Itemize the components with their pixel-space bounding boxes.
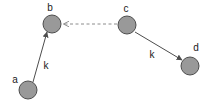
edge-a-to-b-line	[33, 32, 47, 82]
node-c-circle	[118, 16, 136, 34]
edge-a-to-b[interactable]: k	[33, 32, 50, 82]
node-a-circle	[19, 81, 37, 99]
node-layer: a b c d	[12, 2, 199, 99]
node-b-circle	[43, 15, 61, 33]
node-d[interactable]: d	[181, 42, 199, 75]
node-d-label: d	[193, 42, 199, 53]
edge-c-to-d-label: k	[150, 49, 156, 60]
edge-a-to-b-label: k	[44, 60, 50, 71]
node-c-label: c	[124, 3, 129, 14]
node-b[interactable]: b	[43, 2, 61, 33]
graph-diagram-canvas: k k a b c d	[0, 0, 210, 104]
node-a[interactable]: a	[12, 74, 37, 99]
node-b-label: b	[47, 2, 53, 13]
node-a-label: a	[12, 74, 18, 85]
node-c[interactable]: c	[118, 3, 136, 34]
edge-c-to-d-line	[135, 32, 182, 60]
node-d-circle	[181, 57, 199, 75]
edge-c-to-d[interactable]: k	[135, 32, 182, 60]
